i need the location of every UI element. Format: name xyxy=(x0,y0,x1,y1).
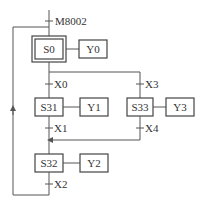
action-y3: Y3 xyxy=(166,98,194,116)
transition-label-x3: X3 xyxy=(145,78,159,90)
step-s32: S32 xyxy=(35,154,63,172)
step-s0: S0 xyxy=(32,36,66,62)
action-y2: Y2 xyxy=(80,154,108,172)
action-y0: Y0 xyxy=(79,40,107,58)
action-label-y3: Y3 xyxy=(173,101,187,113)
action-label-y2: Y2 xyxy=(87,157,100,169)
step-label-s31: S31 xyxy=(40,101,57,113)
transition-label-m8002: M8002 xyxy=(55,15,87,27)
action-label-y0: Y0 xyxy=(86,43,100,55)
sfc-diagram: M8002 S0 Y0 X0 X3 S31 Y1 S33 Y3 xyxy=(0,0,207,209)
transition-label-x1: X1 xyxy=(54,122,67,134)
transition-label-x0: X0 xyxy=(54,78,68,90)
step-label-s33: S33 xyxy=(131,101,149,113)
transition-label-x2: X2 xyxy=(54,178,67,190)
action-y1: Y1 xyxy=(80,98,108,116)
step-label-s0: S0 xyxy=(43,43,55,55)
step-s33: S33 xyxy=(127,98,153,116)
action-label-y1: Y1 xyxy=(87,101,100,113)
step-s31: S31 xyxy=(35,98,63,116)
step-label-s32: S32 xyxy=(40,157,57,169)
transition-label-x4: X4 xyxy=(145,122,159,134)
